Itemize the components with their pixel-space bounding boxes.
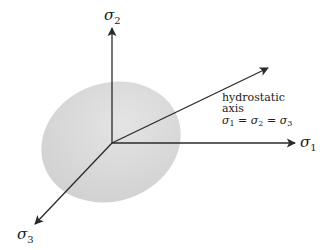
- sigma3-label: σ3: [17, 225, 34, 245]
- sigma1-label: σ1: [300, 133, 317, 153]
- stress-space-diagram: σ2 σ1 σ3 hydrostatic axis σ1 = σ2 = σ3: [0, 0, 329, 250]
- deviatoric-plane-ellipse: [24, 62, 198, 221]
- hydrostatic-equation: σ1 = σ2 = σ3: [222, 114, 292, 128]
- sigma2-label: σ2: [104, 6, 121, 26]
